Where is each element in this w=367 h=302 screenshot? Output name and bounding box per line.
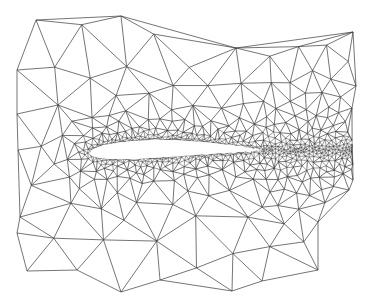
mesh-canvas xyxy=(0,0,367,302)
mesh-figure xyxy=(0,0,367,302)
